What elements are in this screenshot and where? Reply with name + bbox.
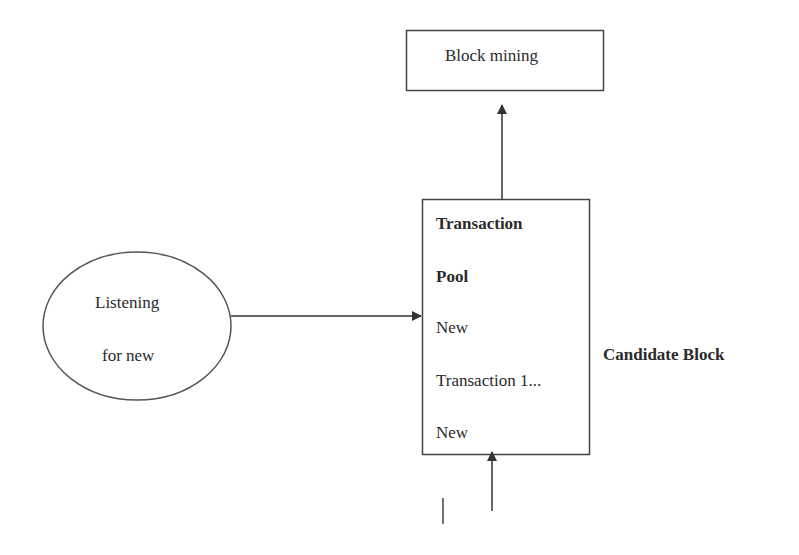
pool-title-line-2: Pool (436, 267, 468, 287)
block-mining-label: Block mining (445, 46, 538, 66)
listener-label-line-1: Listening (95, 293, 159, 313)
pool-item-2: Transaction 1... (436, 371, 541, 391)
pool-item-3: New (436, 423, 468, 443)
listener-ellipse (43, 252, 231, 400)
candidate-block-label: Candidate Block (603, 345, 724, 365)
pool-title-line-1: Transaction (436, 214, 523, 234)
listener-label-line-2: for new (102, 346, 154, 366)
diagram-canvas (0, 0, 799, 555)
pool-item-1: New (436, 318, 468, 338)
